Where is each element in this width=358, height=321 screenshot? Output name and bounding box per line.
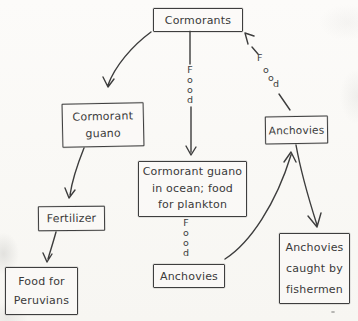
node-guano-in-ocean: Cormorant guano in ocean; food for plank… bbox=[138, 161, 247, 217]
node-label-line: in ocean; food bbox=[152, 181, 233, 198]
node-cormorant-guano: Cormorant guano bbox=[62, 102, 145, 148]
node-label: Fertilizer bbox=[47, 211, 97, 227]
node-label: Anchovies bbox=[160, 269, 218, 284]
node-label: Anchovies bbox=[269, 122, 325, 138]
edge-label-food-diagonal-letter: F bbox=[257, 53, 262, 63]
node-label-line: caught by bbox=[286, 258, 343, 279]
arrow-fertilizer-to-peruvians bbox=[43, 232, 56, 262]
arrow-guano-to-fertilizer bbox=[65, 148, 84, 198]
node-anchovies-center: Anchovies bbox=[153, 264, 225, 288]
node-anchovies-right: Anchovies bbox=[265, 116, 328, 145]
node-food-for-peruvians: Food for Peruvians bbox=[5, 267, 78, 315]
arrow-anchovies-to-fishermen bbox=[296, 145, 321, 227]
node-fertilizer: Fertilizer bbox=[38, 206, 105, 232]
edge-label-food-vertical-top: F o o d bbox=[183, 65, 197, 105]
paper-speck bbox=[331, 311, 335, 313]
edge-label-food-vertical-bottom: F o o d bbox=[179, 218, 193, 258]
node-cormorants: Cormorants bbox=[153, 8, 243, 32]
diagram-canvas: Cormorants Cormorant guano Anchovies Cor… bbox=[0, 0, 358, 321]
node-label-line: guano bbox=[85, 125, 121, 143]
edge-label-food-diagonal-letter: d bbox=[273, 79, 279, 89]
node-label-line: Anchovies bbox=[285, 237, 343, 258]
node-label-line: Food for bbox=[18, 272, 65, 291]
arrow-cormorants-to-guano bbox=[103, 32, 151, 87]
node-label-line: Cormorant bbox=[72, 107, 133, 125]
node-label-line: Peruvians bbox=[14, 291, 69, 310]
node-label: Cormorants bbox=[165, 13, 231, 28]
node-label-line: fishermen bbox=[286, 279, 343, 300]
node-label-line: for plankton bbox=[158, 197, 227, 214]
node-anchovies-caught-by-fishermen: Anchovies caught by fishermen bbox=[279, 233, 350, 304]
node-label-line: Cormorant guano bbox=[143, 164, 243, 181]
